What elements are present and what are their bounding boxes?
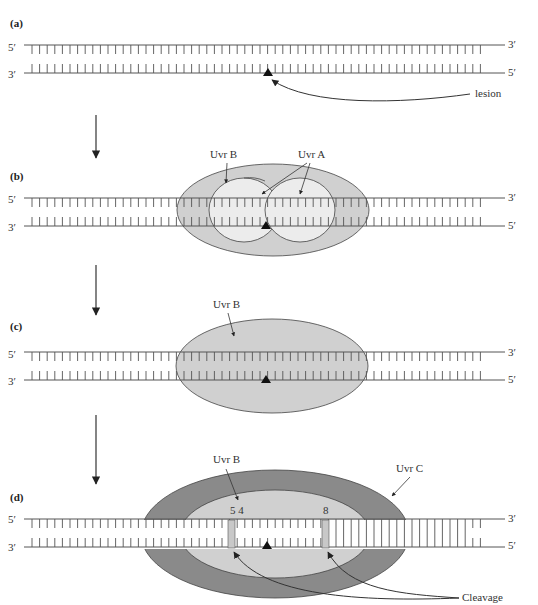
uvrC-pointer bbox=[392, 477, 410, 496]
uvrB-label: Uvr B bbox=[210, 148, 237, 160]
cut-site-label: 5 4 bbox=[230, 504, 244, 516]
strand-end-label: 3′ bbox=[8, 221, 16, 233]
lesion-arrow bbox=[272, 80, 470, 101]
panel-label: (d) bbox=[10, 491, 24, 504]
strand-end-label: 5′ bbox=[508, 373, 516, 385]
strand-end-label: 5′ bbox=[508, 539, 516, 551]
strand-end-label: 3′ bbox=[508, 512, 516, 524]
strand-end-label: 5′ bbox=[8, 41, 16, 53]
strand-end-label: 5′ bbox=[508, 66, 516, 78]
panel-d: (d) 5′ 3′ 3′ 5′ 5 4 8 Uvr B Uvr C Cleava… bbox=[8, 453, 516, 603]
dna-backdrop bbox=[102, 520, 470, 549]
strand-end-label: 3′ bbox=[508, 346, 516, 358]
panel-a: (a) 5′ 3′ 3′ 5′ lesion bbox=[8, 17, 516, 101]
cleavage-site-5prime bbox=[228, 520, 235, 548]
strand-end-label: 3′ bbox=[8, 375, 16, 387]
lesion-label: lesion bbox=[475, 87, 502, 99]
cleavage-label: Cleavage bbox=[462, 591, 503, 603]
cut-site-label: 8 bbox=[323, 504, 329, 516]
uvrB-label: Uvr B bbox=[213, 453, 240, 465]
uvrB-protein bbox=[176, 319, 368, 413]
dna-duplex bbox=[24, 45, 505, 73]
lesion-marker bbox=[263, 68, 273, 76]
panel-label: (c) bbox=[10, 320, 23, 333]
panel-label: (a) bbox=[10, 17, 23, 30]
uvrC-label: Uvr C bbox=[396, 462, 423, 474]
uvrA-label: Uvr A bbox=[298, 148, 325, 160]
strand-end-label: 5′ bbox=[8, 348, 16, 360]
uvrA-protein bbox=[265, 178, 335, 242]
cleavage-site-3prime bbox=[322, 520, 329, 548]
panel-c: (c) 5′ 3′ 3′ 5′ Uvr B bbox=[8, 298, 516, 413]
strand-end-label: 3′ bbox=[508, 191, 516, 203]
panel-label: (b) bbox=[10, 170, 24, 183]
uvrabc-repair-diagram: (a) 5′ 3′ 3′ 5′ lesion (b) 5′ 3′ 3′ 5′ U… bbox=[0, 0, 538, 605]
strand-end-label: 3′ bbox=[508, 38, 516, 50]
strand-end-label: 3′ bbox=[8, 68, 16, 80]
strand-end-label: 5′ bbox=[8, 513, 16, 525]
strand-end-label: 3′ bbox=[8, 541, 16, 553]
strand-end-label: 5′ bbox=[8, 193, 16, 205]
strand-end-label: 5′ bbox=[508, 219, 516, 231]
uvrB-label: Uvr B bbox=[213, 298, 240, 310]
panel-b: (b) 5′ 3′ 3′ 5′ Uvr B Uvr A bbox=[8, 148, 516, 256]
